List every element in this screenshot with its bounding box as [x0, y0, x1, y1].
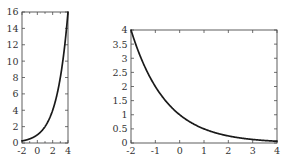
x-tick-label: 4	[274, 145, 280, 156]
plot-frame	[131, 30, 277, 143]
y-tick-label: 3	[121, 53, 127, 64]
y-tick-label: 2.5	[112, 67, 127, 78]
y-tick-label: 4	[121, 24, 127, 35]
x-tick-label: -1	[151, 145, 160, 156]
chart-panel-right: 00.511.522.533.54-2-101234	[0, 0, 291, 165]
y-tick-label: 1.5	[112, 95, 127, 106]
x-tick-label: -2	[126, 145, 135, 156]
x-tick-label: 3	[250, 145, 256, 156]
x-tick-label: 0	[177, 145, 183, 156]
y-tick-label: 2	[121, 81, 127, 92]
y-tick-label: 3.5	[112, 39, 127, 50]
figure-root: 0246810121416-2024 00.511.522.533.54-2-1…	[0, 0, 291, 165]
x-tick-label: 2	[225, 145, 231, 156]
data-curve	[131, 30, 277, 141]
right-chart-svg: 00.511.522.533.54-2-101234	[0, 0, 291, 165]
y-tick-label: 1	[121, 109, 127, 120]
y-tick-label: 0.5	[112, 123, 127, 134]
x-tick-label: 1	[201, 145, 207, 156]
